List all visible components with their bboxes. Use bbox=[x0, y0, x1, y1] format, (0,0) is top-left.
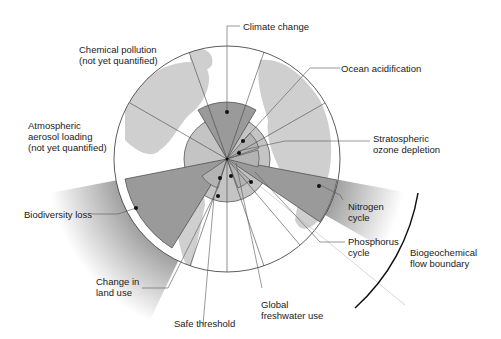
label-line: Biogeochemical bbox=[410, 247, 477, 258]
label-chemical-pollution: Chemical pollution(not yet quantified) bbox=[79, 44, 158, 66]
label-line: Stratospheric bbox=[373, 133, 429, 144]
label-line: Atmospheric bbox=[28, 120, 81, 131]
planetary-boundaries-diagram bbox=[0, 0, 501, 339]
label-line: flow boundary bbox=[410, 258, 469, 269]
label-line: Global bbox=[261, 299, 288, 310]
label-freshwater-use: Globalfreshwater use bbox=[261, 299, 323, 321]
label-phosphorus-cycle: Phosphoruscycle bbox=[348, 236, 399, 258]
label-line: Change in bbox=[96, 276, 139, 287]
label-line: cycle bbox=[348, 212, 370, 223]
label-land-use-change: Change inland use bbox=[96, 276, 139, 298]
label-line: land use bbox=[96, 287, 132, 298]
label-nitrogen-cycle: Nitrogencycle bbox=[348, 201, 384, 223]
label-atmospheric-aerosol: Atmosphericaerosol loading(not yet quant… bbox=[28, 120, 107, 153]
label-line: (not yet quantified) bbox=[28, 142, 107, 153]
label-line: freshwater use bbox=[261, 310, 323, 321]
label-line: Chemical pollution bbox=[79, 44, 157, 55]
label-biodiversity-loss: Biodiversity loss bbox=[24, 209, 92, 220]
label-line: aerosol loading bbox=[28, 131, 92, 142]
label-line: cycle bbox=[348, 247, 370, 258]
label-climate-change: Climate change bbox=[243, 21, 309, 32]
label-line: Phosphorus bbox=[348, 236, 399, 247]
label-safe-threshold: Safe threshold bbox=[174, 318, 235, 329]
label-line: (not yet quantified) bbox=[79, 55, 158, 66]
label-ocean-acidification: Ocean acidification bbox=[341, 63, 421, 74]
label-biogeochemical-boundary: Biogeochemicalflow boundary bbox=[410, 247, 477, 269]
label-line: Nitrogen bbox=[348, 201, 384, 212]
label-line: ozone depletion bbox=[373, 144, 440, 155]
label-stratospheric-ozone: Stratosphericozone depletion bbox=[373, 133, 440, 155]
